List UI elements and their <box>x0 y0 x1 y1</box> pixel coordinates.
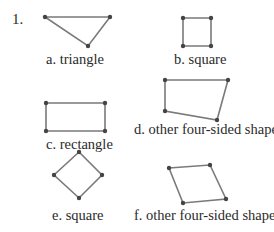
vertex-dot <box>181 201 185 205</box>
vertex-dot <box>108 15 112 19</box>
label-c-rectangle: c. rectangle <box>46 137 113 152</box>
shape-e-square <box>52 150 104 200</box>
vertex-dot <box>208 163 212 167</box>
vertex-dot <box>226 78 230 82</box>
shapes-canvas <box>0 0 274 232</box>
vertex-dot <box>181 44 185 48</box>
label-b-square: b. square <box>174 52 226 67</box>
shape-outline <box>165 80 228 120</box>
vertex-dot <box>163 109 167 113</box>
shape-outline <box>45 17 110 46</box>
vertex-dot <box>181 16 185 20</box>
shape-c-rectangle <box>44 101 107 133</box>
vertex-dot <box>209 44 213 48</box>
label-e-square: e. square <box>52 208 104 223</box>
vertex-dot <box>103 129 107 133</box>
vertex-dot <box>44 101 48 105</box>
vertex-dot <box>167 166 171 170</box>
shape-b-square <box>181 16 213 48</box>
label-a-triangle: a. triangle <box>46 52 104 67</box>
shape-outline <box>54 152 102 198</box>
vertex-dot <box>77 196 81 200</box>
shape-d-quadrilateral <box>163 78 230 122</box>
vertex-dot <box>163 78 167 82</box>
vertex-dot <box>86 44 90 48</box>
shape-outline <box>46 103 105 131</box>
vertex-dot <box>52 173 56 177</box>
shape-a-triangle <box>43 15 112 48</box>
label-f-other-four-sided-shape: f. other four-sided shape <box>134 208 274 223</box>
vertex-dot <box>44 129 48 133</box>
vertex-dot <box>100 173 104 177</box>
vertex-dot <box>103 101 107 105</box>
shape-f-quadrilateral <box>167 163 228 205</box>
vertex-dot <box>43 15 47 19</box>
label-d-other-four-sided-shape: d. other four-sided shape <box>134 122 274 137</box>
shape-outline <box>183 18 211 46</box>
shape-outline <box>169 165 226 203</box>
vertex-dot <box>224 197 228 201</box>
vertex-dot <box>209 16 213 20</box>
